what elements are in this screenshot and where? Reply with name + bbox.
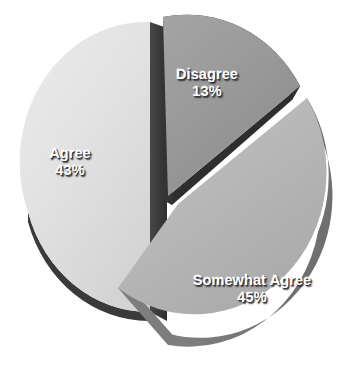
slice-agree xyxy=(20,22,150,312)
pie-chart: Disagree 13% Agree 43% Somewhat Agree 45… xyxy=(0,0,361,376)
pie-chart-graphic xyxy=(0,0,361,376)
